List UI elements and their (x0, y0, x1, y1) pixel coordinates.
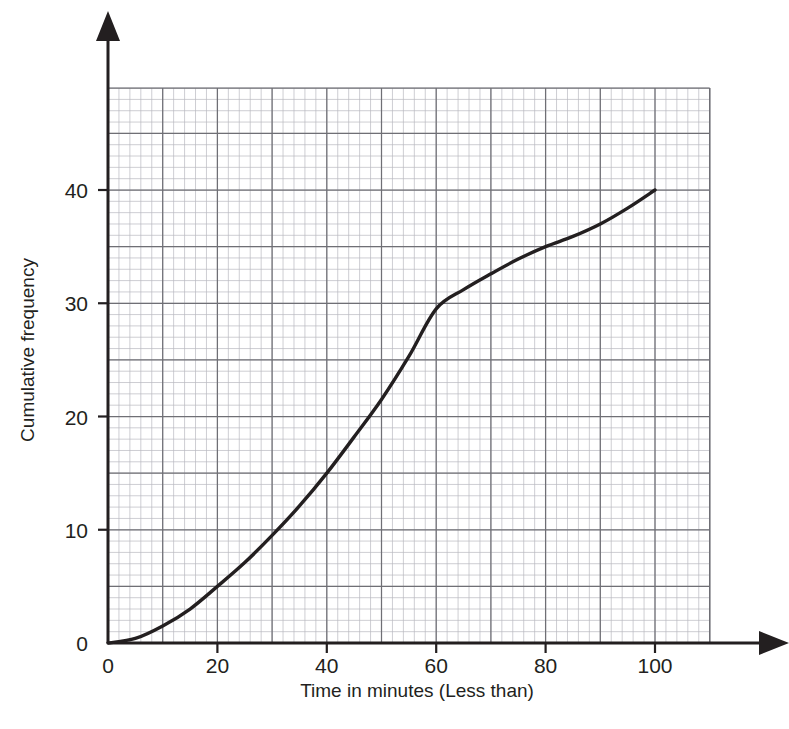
x-axis-title: Time in minutes (Less than) (300, 680, 534, 701)
y-tick-label: 20 (65, 406, 88, 429)
x-tick-label: 100 (637, 654, 672, 677)
y-tick-label: 10 (65, 519, 88, 542)
x-tick-label: 40 (315, 654, 338, 677)
cumulative-frequency-chart: 020406080100 010203040 Time in minutes (… (0, 0, 789, 729)
y-tick-label: 0 (76, 632, 88, 655)
chart-background (0, 0, 789, 729)
x-tick-label: 0 (102, 654, 114, 677)
x-tick-label: 60 (425, 654, 448, 677)
chart-canvas: 020406080100 010203040 Time in minutes (… (0, 0, 789, 729)
x-tick-label: 20 (206, 654, 229, 677)
y-tick-label: 40 (65, 179, 88, 202)
x-tick-label: 80 (534, 654, 557, 677)
y-tick-label: 30 (65, 292, 88, 315)
y-axis-title: Cumulative frequency (17, 258, 38, 442)
